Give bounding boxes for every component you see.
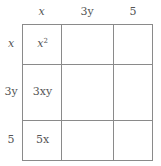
cell-empty bbox=[114, 65, 152, 120]
column-header-x: x bbox=[22, 6, 61, 18]
row-header-x: x bbox=[2, 38, 20, 50]
cell-empty bbox=[114, 121, 152, 160]
cell-3xy: 3xy bbox=[23, 86, 62, 98]
row-header-3y: 3y bbox=[2, 86, 20, 98]
row-header-5: 5 bbox=[2, 134, 20, 146]
column-header-3y: 3y bbox=[61, 6, 113, 18]
cell-empty bbox=[62, 121, 114, 160]
cell-empty bbox=[114, 25, 152, 64]
cell-x-squared: x2 bbox=[23, 38, 62, 50]
cell-empty bbox=[62, 65, 114, 120]
cell-empty bbox=[62, 25, 114, 64]
area-grid: x2 3xy 5x bbox=[22, 24, 153, 161]
column-header-5: 5 bbox=[113, 6, 153, 18]
cell-5x: 5x bbox=[23, 134, 62, 146]
